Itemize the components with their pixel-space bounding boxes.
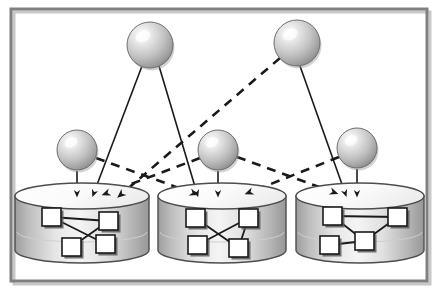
mid-right-sphere[interactable] xyxy=(337,128,379,171)
cylinder-top-face xyxy=(296,183,424,209)
graph-node-box xyxy=(320,236,339,254)
connection-solid-t1-to-db1[interactable] xyxy=(95,66,142,190)
graph-node[interactable] xyxy=(239,209,261,230)
sphere-body xyxy=(127,22,173,68)
connection-solid-t2-to-db3[interactable] xyxy=(300,66,344,190)
graph-node[interactable] xyxy=(42,208,64,229)
graph-node[interactable] xyxy=(355,232,377,253)
graph-node-box xyxy=(188,236,207,254)
graph-node[interactable] xyxy=(186,209,208,230)
top-left-sphere[interactable] xyxy=(127,22,175,71)
sphere-body xyxy=(274,20,320,66)
graph-node-box xyxy=(62,238,81,256)
sphere-body xyxy=(57,130,97,170)
graph-node[interactable] xyxy=(323,207,345,228)
graph-node-box xyxy=(323,207,342,225)
graph-node-box xyxy=(229,239,248,257)
distributed-database-diagram xyxy=(0,0,438,294)
graph-node-box xyxy=(42,208,61,226)
graph-node-box xyxy=(96,235,115,253)
graph-node-box xyxy=(186,209,205,227)
database-center[interactable] xyxy=(158,183,286,263)
graph-node[interactable] xyxy=(320,236,342,257)
graph-node[interactable] xyxy=(99,212,121,233)
sphere-body xyxy=(337,128,377,168)
graph-node[interactable] xyxy=(388,208,410,229)
mid-left-sphere[interactable] xyxy=(57,130,99,173)
graph-node[interactable] xyxy=(96,235,118,256)
top-right-sphere[interactable] xyxy=(274,20,322,69)
graph-node-box xyxy=(239,209,258,227)
graph-node-box xyxy=(355,232,374,250)
connection-dashed-t2-to-db1[interactable] xyxy=(124,58,280,192)
sphere-body xyxy=(198,130,238,170)
diagram-canvas xyxy=(0,0,438,294)
graph-node-box xyxy=(388,208,407,226)
cylinder-top-face xyxy=(15,183,149,209)
graph-node[interactable] xyxy=(229,239,251,260)
graph-node-box xyxy=(99,212,118,230)
graph-node[interactable] xyxy=(62,238,84,259)
cylinder-top-face xyxy=(158,183,286,209)
graph-node[interactable] xyxy=(188,236,210,257)
mid-center-sphere[interactable] xyxy=(198,130,240,173)
